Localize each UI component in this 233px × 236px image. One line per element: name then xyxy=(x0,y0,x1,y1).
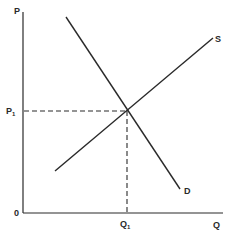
supply-curve-label: S xyxy=(215,34,221,44)
quantity-subscript: 1 xyxy=(127,224,131,230)
x-axis-label: Q xyxy=(213,220,220,230)
origin-label: 0 xyxy=(14,208,19,218)
y-axis-label: P xyxy=(14,6,20,16)
quantity-label: Q xyxy=(120,219,127,229)
equilibrium-price-label: P1 xyxy=(6,106,16,117)
demand-curve-label: D xyxy=(184,186,191,196)
supply-demand-diagram: P 0 Q P1 Q1 S D xyxy=(0,0,233,236)
equilibrium-quantity-label: Q1 xyxy=(120,219,131,230)
demand-curve xyxy=(66,17,180,189)
price-subscript: 1 xyxy=(12,111,16,117)
supply-curve xyxy=(55,38,213,171)
